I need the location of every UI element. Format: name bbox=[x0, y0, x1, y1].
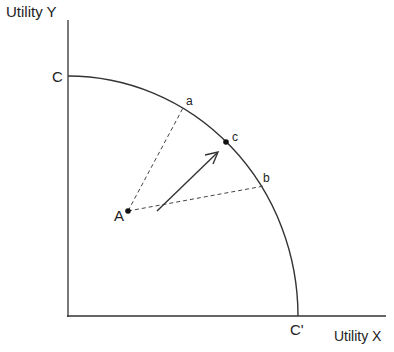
point-A bbox=[125, 208, 131, 214]
frontier-x-intercept-label: C' bbox=[290, 321, 304, 338]
x-axis-label: Utility X bbox=[334, 328, 382, 344]
point-c bbox=[223, 139, 229, 145]
y-axis-label: Utility Y bbox=[6, 3, 57, 20]
utility-frontier-diagram: Utility Y Utility X C C' A a c b bbox=[0, 0, 394, 352]
point-A-label: A bbox=[114, 207, 124, 224]
point-b-label: b bbox=[263, 171, 270, 185]
utility-frontier-curve bbox=[68, 76, 298, 316]
frontier-y-intercept-label: C bbox=[52, 68, 63, 85]
point-c-label: c bbox=[232, 130, 238, 144]
movement-arrow bbox=[157, 153, 217, 211]
point-a-label: a bbox=[186, 94, 193, 108]
dashed-line-A-to-a bbox=[128, 108, 183, 211]
dashed-line-A-to-b bbox=[128, 186, 264, 211]
